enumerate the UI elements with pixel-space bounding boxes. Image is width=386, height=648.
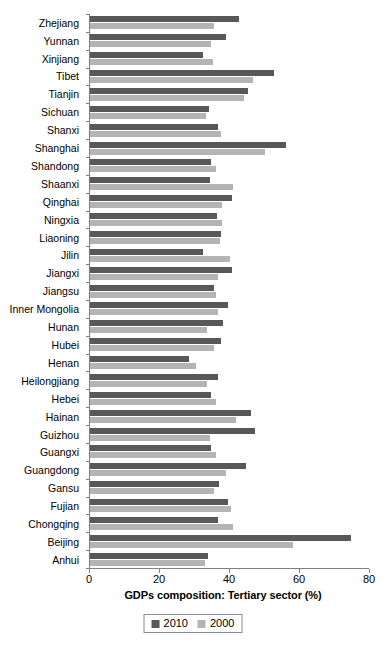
y-axis-label: Tibet bbox=[0, 68, 85, 86]
x-axis-tick-label: 40 bbox=[223, 574, 235, 585]
bar-group bbox=[90, 103, 369, 121]
y-axis-label: Jiangsu bbox=[0, 283, 85, 301]
y-axis-labels: ZhejiangYunnanXinjiangTibetTianjinSichua… bbox=[0, 14, 85, 569]
y-axis-label: Guangxi bbox=[0, 444, 85, 462]
y-axis-label: Zhejiang bbox=[0, 14, 85, 32]
bar-2000 bbox=[90, 470, 226, 476]
bar-2010 bbox=[90, 70, 274, 76]
bar-2000 bbox=[90, 506, 231, 512]
bar-group bbox=[90, 50, 369, 68]
x-axis-tick-label: 20 bbox=[153, 574, 165, 585]
x-axis-tick-label: 60 bbox=[293, 574, 305, 585]
y-axis-label: Chongqing bbox=[0, 515, 85, 533]
bar-group bbox=[90, 264, 369, 282]
bar-group bbox=[90, 282, 369, 300]
legend-swatch bbox=[152, 620, 160, 628]
bar-2000 bbox=[90, 524, 233, 530]
bar-group bbox=[90, 461, 369, 479]
bar-2010 bbox=[90, 16, 239, 22]
bar-2010 bbox=[90, 320, 223, 326]
y-axis-label: Jiangxi bbox=[0, 265, 85, 283]
y-axis-label: Shaanxi bbox=[0, 175, 85, 193]
bar-group bbox=[90, 550, 369, 568]
x-axis: 020406080 bbox=[89, 569, 369, 589]
bar-2000 bbox=[90, 274, 218, 280]
bar-group bbox=[90, 372, 369, 390]
bar-2000 bbox=[90, 292, 216, 298]
y-axis-label: Hainan bbox=[0, 408, 85, 426]
bar-group bbox=[90, 121, 369, 139]
bar-group bbox=[90, 354, 369, 372]
bar-2010 bbox=[90, 410, 251, 416]
bar-group bbox=[90, 336, 369, 354]
bar-2000 bbox=[90, 417, 236, 423]
bar-2000 bbox=[90, 41, 211, 47]
y-axis-label: Jilin bbox=[0, 247, 85, 265]
bar-2000 bbox=[90, 327, 207, 333]
bar-2000 bbox=[90, 220, 222, 226]
bar-2000 bbox=[90, 435, 210, 441]
bar-chart: ZhejiangYunnanXinjiangTibetTianjinSichua… bbox=[0, 0, 386, 648]
bar-2000 bbox=[90, 166, 216, 172]
y-axis-label: Liaoning bbox=[0, 229, 85, 247]
bar-group bbox=[90, 68, 369, 86]
bar-group bbox=[90, 425, 369, 443]
bar-2000 bbox=[90, 131, 221, 137]
y-axis-label: Anhui bbox=[0, 551, 85, 569]
y-axis-label: Guangdong bbox=[0, 462, 85, 480]
y-axis-label: Shandong bbox=[0, 157, 85, 175]
bar-2010 bbox=[90, 231, 221, 237]
y-axis-label: Inner Mongolia bbox=[0, 301, 85, 319]
bar-2010 bbox=[90, 34, 226, 40]
bar-2010 bbox=[90, 428, 255, 434]
y-axis-label: Shanghai bbox=[0, 139, 85, 157]
bar-2010 bbox=[90, 463, 246, 469]
bar-2000 bbox=[90, 309, 218, 315]
bar-group bbox=[90, 32, 369, 50]
y-axis-label: Hebei bbox=[0, 390, 85, 408]
bar-2010 bbox=[90, 106, 209, 112]
y-axis-label: Beijing bbox=[0, 533, 85, 551]
bar-2010 bbox=[90, 124, 218, 130]
bar-group bbox=[90, 407, 369, 425]
bar-group bbox=[90, 479, 369, 497]
y-axis-label: Heilongjiang bbox=[0, 372, 85, 390]
bar-2010 bbox=[90, 356, 189, 362]
legend-item: 2000 bbox=[198, 618, 234, 629]
bar-2010 bbox=[90, 553, 208, 559]
bar-group bbox=[90, 193, 369, 211]
legend-label: 2000 bbox=[210, 618, 234, 629]
bar-2010 bbox=[90, 338, 221, 344]
bar-group bbox=[90, 532, 369, 550]
bar-group bbox=[90, 443, 369, 461]
bar-2000 bbox=[90, 363, 196, 369]
bar-group bbox=[90, 246, 369, 264]
bar-2010 bbox=[90, 445, 211, 451]
plot-area bbox=[89, 14, 369, 569]
bar-group bbox=[90, 497, 369, 515]
bar-2000 bbox=[90, 452, 216, 458]
chart-legend: 20102000 bbox=[144, 614, 243, 633]
legend-swatch bbox=[198, 620, 206, 628]
bar-2010 bbox=[90, 285, 214, 291]
bar-2000 bbox=[90, 149, 265, 155]
bar-2010 bbox=[90, 267, 232, 273]
bar-2010 bbox=[90, 177, 210, 183]
bar-2000 bbox=[90, 399, 216, 405]
y-axis-label: Henan bbox=[0, 354, 85, 372]
bar-2000 bbox=[90, 345, 214, 351]
y-axis-label: Hubei bbox=[0, 336, 85, 354]
legend-label: 2010 bbox=[164, 618, 188, 629]
x-axis-title: GDPs composition: Tertiary sector (%) bbox=[0, 589, 386, 601]
y-axis-label: Sichuan bbox=[0, 104, 85, 122]
bar-group bbox=[90, 175, 369, 193]
y-axis-label: Qinghai bbox=[0, 193, 85, 211]
bar-2000 bbox=[90, 202, 222, 208]
y-axis-label: Fujian bbox=[0, 497, 85, 515]
bar-2000 bbox=[90, 59, 213, 65]
y-axis-label: Ningxia bbox=[0, 211, 85, 229]
bar-group bbox=[90, 300, 369, 318]
bar-2010 bbox=[90, 481, 219, 487]
bar-2010 bbox=[90, 88, 248, 94]
bar-2010 bbox=[90, 159, 211, 165]
